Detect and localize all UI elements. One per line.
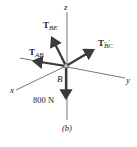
free-body-diagram: z y x B TBE TAB TBC 800 N (b): [0, 0, 137, 147]
label-t-ab: TAB: [29, 47, 44, 59]
label-t-bc: TBC: [98, 38, 113, 50]
arrow-t-ab: [34, 61, 66, 66]
label-t-be: TBE: [43, 20, 58, 32]
figure-caption: (b): [62, 123, 72, 133]
label-t-be-sub: BE: [49, 24, 58, 32]
arrow-t-be: [52, 38, 66, 66]
label-t-bc-sub: BC: [104, 42, 113, 50]
point-b-label: B: [57, 74, 63, 84]
label-t-ab-sub: AB: [34, 51, 44, 59]
y-axis-label: y: [125, 75, 130, 85]
z-axis-label: z: [63, 2, 68, 12]
force-arrows: [34, 38, 93, 98]
label-weight: 800 N: [33, 95, 54, 105]
joint-b-dot: [64, 64, 69, 69]
x-axis-label: x: [9, 85, 14, 95]
arrow-t-bc: [66, 50, 93, 66]
